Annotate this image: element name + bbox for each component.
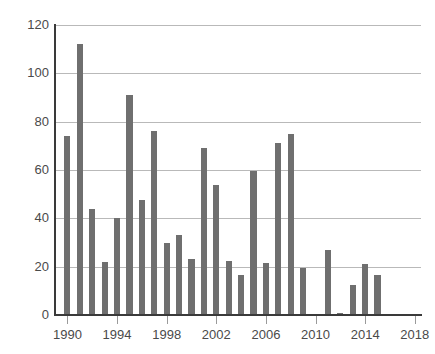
y-tick-label: 0	[9, 308, 49, 321]
x-tick-label: 2018	[385, 327, 435, 342]
bar	[126, 95, 132, 315]
y-tick-label: 20	[9, 260, 49, 273]
bar-chart: 020406080100120 199019941998200220062010…	[0, 0, 435, 354]
x-tick-mark	[216, 316, 217, 324]
bar	[350, 285, 356, 315]
y-tick-label: 80	[9, 115, 49, 128]
bars-layer	[55, 25, 421, 315]
bar	[263, 263, 269, 315]
x-tick-mark	[365, 316, 366, 324]
x-tick-mark	[266, 316, 267, 324]
bar	[250, 171, 256, 315]
x-axis-line	[54, 314, 422, 316]
bar	[300, 268, 306, 315]
bar	[102, 262, 108, 315]
plot-area	[55, 25, 421, 315]
y-tick-label: 100	[9, 66, 49, 79]
bar	[362, 264, 368, 315]
y-axis-labels: 020406080100120	[3, 0, 49, 354]
bar	[288, 134, 294, 315]
x-tick-mark	[415, 316, 416, 324]
bar	[188, 259, 194, 315]
bar	[151, 131, 157, 315]
x-tick-mark	[316, 316, 317, 324]
bar	[89, 209, 95, 315]
bar	[201, 148, 207, 315]
x-tick-mark	[117, 316, 118, 324]
bar	[238, 275, 244, 315]
bar	[139, 200, 145, 315]
bar	[64, 136, 70, 315]
y-axis-line	[54, 24, 56, 316]
x-tick-mark	[167, 316, 168, 324]
bar	[325, 250, 331, 315]
y-tick-label: 120	[9, 18, 49, 31]
bar	[77, 44, 83, 315]
bar	[275, 143, 281, 315]
bar	[164, 243, 170, 316]
bar	[213, 185, 219, 316]
bar	[374, 275, 380, 315]
bar	[226, 261, 232, 315]
y-tick-label: 60	[9, 163, 49, 176]
bar	[114, 218, 120, 315]
y-tick-label: 40	[9, 211, 49, 224]
bar	[176, 235, 182, 315]
x-tick-mark	[67, 316, 68, 324]
